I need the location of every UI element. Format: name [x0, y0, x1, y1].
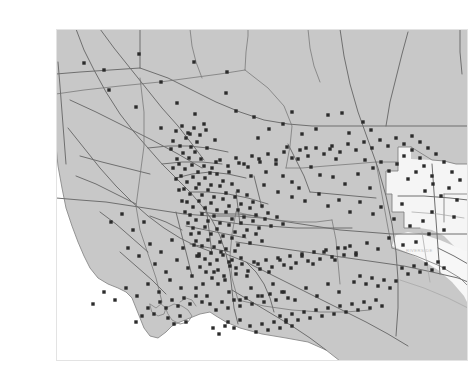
map-data-point[interactable] [344, 310, 347, 313]
map-data-point[interactable] [224, 210, 227, 213]
map-data-point[interactable] [233, 195, 236, 198]
map-data-point[interactable] [394, 279, 397, 282]
map-data-point[interactable] [274, 158, 277, 161]
map-data-point[interactable] [183, 167, 186, 170]
map-data-point[interactable] [168, 278, 171, 281]
map-data-point[interactable] [217, 332, 220, 335]
map-data-point[interactable] [137, 52, 140, 55]
map-data-point[interactable] [442, 266, 445, 269]
map-data-point[interactable] [200, 212, 203, 215]
map-data-point[interactable] [230, 236, 233, 239]
map-data-point[interactable] [200, 193, 203, 196]
map-data-point[interactable] [376, 247, 379, 250]
map-data-point[interactable] [142, 220, 145, 223]
map-data-point[interactable] [302, 310, 305, 313]
map-data-point[interactable] [158, 300, 161, 303]
map-data-point[interactable] [284, 318, 287, 321]
map-data-point[interactable] [455, 198, 458, 201]
map-data-point[interactable] [221, 179, 224, 182]
map-data-point[interactable] [364, 282, 367, 285]
map-data-point[interactable] [196, 170, 199, 173]
map-data-point[interactable] [174, 129, 177, 132]
map-data-point[interactable] [332, 312, 335, 315]
map-data-point[interactable] [379, 205, 382, 208]
map-data-point[interactable] [245, 274, 248, 277]
map-data-point[interactable] [230, 182, 233, 185]
map-data-point[interactable] [249, 286, 252, 289]
map-data-point[interactable] [458, 178, 461, 181]
map-data-point[interactable] [148, 242, 151, 245]
map-data-point[interactable] [306, 154, 309, 157]
map-data-point[interactable] [181, 151, 184, 154]
map-data-point[interactable] [199, 157, 202, 160]
map-data-point[interactable] [348, 210, 351, 213]
map-data-point[interactable] [140, 314, 143, 317]
map-data-point[interactable] [257, 157, 260, 160]
map-data-point[interactable] [159, 126, 162, 129]
map-data-point[interactable] [209, 232, 212, 235]
map-data-point[interactable] [250, 154, 253, 157]
map-data-point[interactable] [262, 183, 265, 186]
map-data-point[interactable] [326, 204, 329, 207]
map-data-point[interactable] [337, 290, 340, 293]
map-data-point[interactable] [222, 274, 225, 277]
map-data-point[interactable] [427, 232, 430, 235]
map-data-point[interactable] [202, 122, 205, 125]
map-data-point[interactable] [290, 156, 293, 159]
map-data-point[interactable] [322, 152, 325, 155]
map-data-point[interactable] [236, 189, 239, 192]
map-data-point[interactable] [275, 215, 278, 218]
map-data-point[interactable] [256, 294, 259, 297]
map-data-point[interactable] [201, 282, 204, 285]
map-data-point[interactable] [264, 258, 267, 261]
map-data-point[interactable] [270, 265, 273, 268]
map-data-point[interactable] [107, 88, 110, 91]
map-data-point[interactable] [408, 224, 411, 227]
map-data-point[interactable] [203, 176, 206, 179]
map-data-point[interactable] [246, 269, 249, 272]
map-data-point[interactable] [370, 276, 373, 279]
map-data-point[interactable] [248, 206, 251, 209]
map-data-point[interactable] [358, 274, 361, 277]
map-data-point[interactable] [260, 322, 263, 325]
map-data-point[interactable] [395, 162, 398, 165]
map-data-point[interactable] [234, 109, 237, 112]
map-data-point[interactable] [192, 243, 195, 246]
map-data-point[interactable] [172, 322, 175, 325]
map-data-point[interactable] [267, 127, 270, 130]
map-data-point[interactable] [232, 326, 235, 329]
map-data-point[interactable] [296, 318, 299, 321]
map-data-point[interactable] [430, 210, 433, 213]
map-data-point[interactable] [227, 170, 230, 173]
map-data-point[interactable] [338, 150, 341, 153]
map-data-point[interactable] [256, 136, 259, 139]
map-data-point[interactable] [91, 302, 94, 305]
map-data-point[interactable] [340, 111, 343, 114]
map-data-point[interactable] [203, 257, 206, 260]
map-data-point[interactable] [266, 211, 269, 214]
map-data-point[interactable] [218, 240, 221, 243]
map-data-point[interactable] [312, 250, 315, 253]
map-data-point[interactable] [184, 320, 187, 323]
map-data-point[interactable] [365, 241, 368, 244]
map-data-point[interactable] [233, 249, 236, 252]
map-data-point[interactable] [242, 234, 245, 237]
map-data-point[interactable] [450, 170, 453, 173]
map-data-point[interactable] [242, 215, 245, 218]
map-data-point[interactable] [224, 91, 227, 94]
map-data-point[interactable] [180, 124, 183, 127]
map-data-point[interactable] [252, 115, 255, 118]
map-data-point[interactable] [290, 180, 293, 183]
map-data-point[interactable] [178, 144, 181, 147]
map-data-point[interactable] [232, 298, 235, 301]
map-data-point[interactable] [183, 210, 186, 213]
map-data-point[interactable] [238, 304, 241, 307]
map-data-point[interactable] [212, 245, 215, 248]
map-data-point[interactable] [179, 174, 182, 177]
map-data-point[interactable] [226, 306, 229, 309]
map-data-point[interactable] [410, 148, 413, 151]
map-canvas[interactable]: RIVERSIDE [40, 16, 472, 365]
map-data-point[interactable] [260, 294, 263, 297]
map-data-point[interactable] [348, 244, 351, 247]
map-data-point[interactable] [258, 160, 261, 163]
